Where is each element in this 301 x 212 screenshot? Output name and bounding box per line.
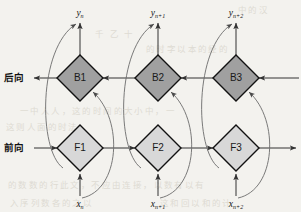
input-label-0: xn xyxy=(75,199,83,210)
backward-node-B1-label: B1 xyxy=(74,72,87,83)
output-label-1: yn+1 xyxy=(150,8,165,19)
input-stubs xyxy=(80,174,236,196)
output-label-2: yn+2 xyxy=(228,8,243,19)
forward-node-F3[interactable]: F3 xyxy=(213,125,259,171)
input-labels: xn xn+1 xn+2 xyxy=(75,199,243,210)
forward-node-F1[interactable]: F1 xyxy=(57,125,103,171)
output-labels: yn yn+1 yn+2 xyxy=(75,8,243,19)
output-label-0: yn xyxy=(75,8,83,19)
forward-node-F2-label: F2 xyxy=(152,142,164,153)
brnn-unfolded-diagram: B1 B2 B3 F1 F2 F3 后向 前向 yn xyxy=(0,0,301,212)
row-label-forward: 前向 xyxy=(4,142,24,153)
input-label-1: xn+1 xyxy=(150,199,165,210)
figure-canvas: 中的汉千 乙 十的时字以本的经的一中人人，这的时间的大小中，一这则人面的时法的数… xyxy=(0,0,301,212)
backward-node-B3-label: B3 xyxy=(230,72,243,83)
forward-node-F2[interactable]: F2 xyxy=(135,125,181,171)
forward-node-F3-label: F3 xyxy=(230,142,242,153)
output-stubs xyxy=(80,23,236,55)
backward-node-B2-label: B2 xyxy=(152,72,165,83)
forward-node-F1-label: F1 xyxy=(74,142,86,153)
row-label-backward: 后向 xyxy=(4,72,24,83)
backward-node-B2[interactable]: B2 xyxy=(135,55,181,101)
backward-node-B3[interactable]: B3 xyxy=(213,55,259,101)
input-label-2: xn+2 xyxy=(228,199,243,210)
backward-node-B1[interactable]: B1 xyxy=(57,55,103,101)
